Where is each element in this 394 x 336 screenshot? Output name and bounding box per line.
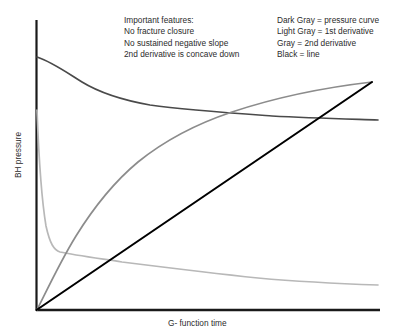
- annotation-note-line: 2nd derivative is concave down: [124, 49, 239, 60]
- legend-entry-first-derivative: Light Gray = 1st derivative: [277, 26, 379, 37]
- x-axis-label: G- function time: [168, 318, 227, 328]
- chart-legend: Dark Gray = pressure curve Light Gray = …: [277, 15, 379, 61]
- annotation-note-line: Important features:: [124, 15, 239, 26]
- y-axis-label: BH pressure: [13, 115, 23, 195]
- series-first-derivative: [37, 110, 378, 285]
- annotation-note-line: No sustained negative slope: [124, 38, 239, 49]
- legend-entry-line: Black = line: [277, 49, 379, 60]
- legend-entry-second-derivative: Gray = 2nd derivative: [277, 38, 379, 49]
- series-reference-line: [37, 82, 373, 310]
- annotation-notes: Important features: No fracture closure …: [124, 15, 239, 61]
- annotation-note-line: No fracture closure: [124, 26, 239, 37]
- chart-page: Important features: No fracture closure …: [0, 0, 394, 336]
- legend-entry-pressure-curve: Dark Gray = pressure curve: [277, 15, 379, 26]
